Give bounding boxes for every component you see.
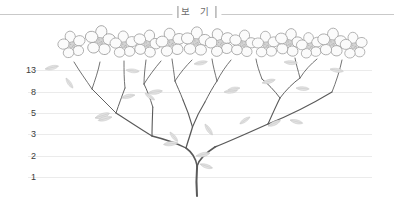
- y-tick-label-5: 5: [31, 108, 36, 118]
- fibonacci-tree-figure: 보 기 13 8 5 3 2 1: [0, 0, 394, 200]
- y-tick-label-2: 2: [31, 151, 36, 161]
- flower-group: [56, 24, 369, 60]
- y-axis: 13 8 5 3 2 1: [0, 0, 46, 200]
- figure-title: 보 기: [178, 6, 215, 18]
- flower-9: [252, 30, 281, 57]
- plant-drawing: [0, 0, 394, 200]
- leaf-group: [45, 60, 344, 171]
- flower-1: [56, 28, 88, 59]
- y-tick-label-13: 13: [26, 65, 36, 75]
- y-tick-label-8: 8: [31, 87, 36, 97]
- flower-3: [109, 30, 139, 58]
- caption-right-tick-icon: [216, 6, 217, 18]
- flower-13: [339, 31, 369, 59]
- y-tick-label-3: 3: [31, 129, 36, 139]
- y-tick-label-1: 1: [31, 172, 36, 182]
- figure-caption: 보 기: [172, 6, 221, 18]
